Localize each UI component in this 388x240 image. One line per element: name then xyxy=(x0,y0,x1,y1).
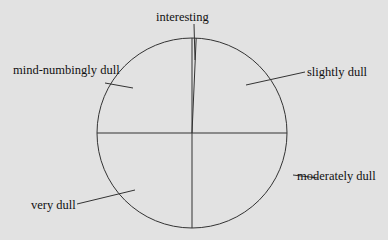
leader-lines xyxy=(77,24,318,204)
leader-line-slightly-dull xyxy=(246,72,305,85)
label-slightly-dull: slightly dull xyxy=(307,65,367,79)
label-moderately-dull: moderately dull xyxy=(297,169,376,183)
pie-slices xyxy=(97,38,287,228)
label-interesting: interesting xyxy=(156,10,209,24)
slice-boundary-slightly-dull xyxy=(192,38,196,133)
label-very-dull: very dull xyxy=(31,198,76,212)
label-mind-numbingly-dull: mind-numbingly dull xyxy=(13,63,120,77)
leader-line-interesting xyxy=(194,24,195,60)
